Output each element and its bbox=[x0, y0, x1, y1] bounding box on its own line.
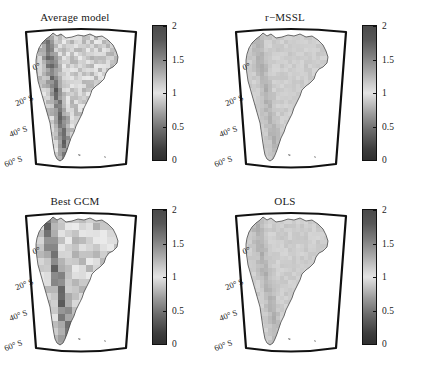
lat-label-r-mssl-1: 20° S bbox=[209, 92, 244, 113]
map-r-mssl: 0°20° S40° S60° S bbox=[230, 24, 352, 170]
lat-labels-average-model: 0°20° S40° S60° S bbox=[20, 24, 142, 170]
colorbar-label-ols-2: 1 bbox=[382, 272, 387, 282]
colorbar-label-ols-0: 2 bbox=[382, 205, 387, 215]
colorbar-tick-best-gcm-0 bbox=[163, 210, 167, 211]
panel-average-model: Average model0°20° S40° S60° S21.510.50 bbox=[0, 0, 210, 184]
lat-label-best-gcm-1: 20° S bbox=[0, 276, 35, 297]
lat-label-best-gcm-2: 40° S bbox=[0, 307, 29, 328]
colorbar-label-r-mssl-1: 1.5 bbox=[382, 55, 394, 65]
lat-label-best-gcm-0: 0° bbox=[6, 244, 41, 265]
colorbar-tick-r-mssl-1 bbox=[373, 60, 377, 61]
map-ols: 0°20° S40° S60° S bbox=[230, 208, 352, 354]
colorbar-label-r-mssl-2: 1 bbox=[382, 88, 387, 98]
colorbar-tick-best-gcm-1 bbox=[163, 244, 167, 245]
panel-title-best-gcm: Best GCM bbox=[0, 195, 150, 207]
lat-label-average-model-1: 20° S bbox=[0, 92, 35, 113]
colorbar-label-average-model-0: 2 bbox=[172, 21, 177, 31]
colorbar-tick-ols-1 bbox=[373, 244, 377, 245]
lat-labels-ols: 0°20° S40° S60° S bbox=[230, 208, 352, 354]
lat-labels-best-gcm: 0°20° S40° S60° S bbox=[20, 208, 142, 354]
map-best-gcm: 0°20° S40° S60° S bbox=[20, 208, 142, 354]
colorbar-label-best-gcm-1: 1.5 bbox=[172, 239, 184, 249]
colorbar-label-best-gcm-4: 0 bbox=[172, 339, 177, 349]
lat-label-best-gcm-3: 60° S bbox=[0, 338, 24, 359]
colorbar-label-average-model-1: 1.5 bbox=[172, 55, 184, 65]
colorbar-r-mssl: 21.510.50 bbox=[362, 25, 417, 165]
colorbar-label-ols-4: 0 bbox=[382, 339, 387, 349]
colorbar-tick-r-mssl-4 bbox=[373, 160, 377, 161]
colorbar-label-r-mssl-4: 0 bbox=[382, 155, 387, 165]
colorbar-label-best-gcm-0: 2 bbox=[172, 205, 177, 215]
panel-title-average-model: Average model bbox=[0, 11, 150, 23]
colorbar-tick-r-mssl-3 bbox=[373, 127, 377, 128]
panel-r-mssl: r−MSSL0°20° S40° S60° S21.510.50 bbox=[210, 0, 420, 184]
colorbar-tick-ols-2 bbox=[373, 277, 377, 278]
colorbar-tick-average-model-4 bbox=[163, 160, 167, 161]
colorbar-tick-r-mssl-0 bbox=[373, 26, 377, 27]
colorbar-label-ols-3: 0.5 bbox=[382, 306, 394, 316]
colorbar-tick-ols-4 bbox=[373, 344, 377, 345]
colorbar-average-model: 21.510.50 bbox=[152, 25, 207, 165]
colorbar-label-average-model-3: 0.5 bbox=[172, 122, 184, 132]
colorbar-label-r-mssl-3: 0.5 bbox=[382, 122, 394, 132]
lat-labels-r-mssl: 0°20° S40° S60° S bbox=[230, 24, 352, 170]
panel-title-r-mssl: r−MSSL bbox=[210, 11, 360, 23]
map-average-model: 0°20° S40° S60° S bbox=[20, 24, 142, 170]
colorbar-tick-ols-3 bbox=[373, 311, 377, 312]
colorbar-tick-average-model-0 bbox=[163, 26, 167, 27]
lat-label-r-mssl-0: 0° bbox=[216, 60, 251, 81]
colorbar-label-average-model-2: 1 bbox=[172, 88, 177, 98]
lat-label-average-model-2: 40° S bbox=[0, 123, 29, 144]
colorbar-label-ols-1: 1.5 bbox=[382, 239, 394, 249]
colorbar-ols: 21.510.50 bbox=[362, 209, 417, 349]
colorbar-tick-average-model-3 bbox=[163, 127, 167, 128]
colorbar-label-average-model-4: 0 bbox=[172, 155, 177, 165]
figure-canvas: Average model0°20° S40° S60° S21.510.50r… bbox=[0, 0, 421, 368]
colorbar-tick-best-gcm-2 bbox=[163, 277, 167, 278]
colorbar-tick-average-model-1 bbox=[163, 60, 167, 61]
lat-label-average-model-3: 60° S bbox=[0, 154, 24, 175]
colorbar-label-best-gcm-2: 1 bbox=[172, 272, 177, 282]
colorbar-tick-r-mssl-2 bbox=[373, 93, 377, 94]
colorbar-tick-best-gcm-3 bbox=[163, 311, 167, 312]
colorbar-best-gcm: 21.510.50 bbox=[152, 209, 207, 349]
colorbar-tick-average-model-2 bbox=[163, 93, 167, 94]
panel-best-gcm: Best GCM0°20° S40° S60° S21.510.50 bbox=[0, 184, 210, 368]
lat-label-average-model-0: 0° bbox=[6, 60, 41, 81]
lat-label-ols-1: 20° S bbox=[209, 276, 244, 297]
colorbar-label-r-mssl-0: 2 bbox=[382, 21, 387, 31]
panel-title-ols: OLS bbox=[210, 195, 360, 207]
colorbar-label-best-gcm-3: 0.5 bbox=[172, 306, 184, 316]
colorbar-tick-ols-0 bbox=[373, 210, 377, 211]
panel-ols: OLS0°20° S40° S60° S21.510.50 bbox=[210, 184, 420, 368]
colorbar-tick-best-gcm-4 bbox=[163, 344, 167, 345]
lat-label-ols-0: 0° bbox=[216, 244, 251, 265]
